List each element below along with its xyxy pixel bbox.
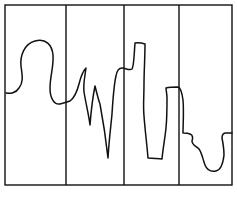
scribble-figure	[0, 0, 237, 199]
background	[0, 0, 237, 199]
figure-svg	[0, 0, 237, 199]
